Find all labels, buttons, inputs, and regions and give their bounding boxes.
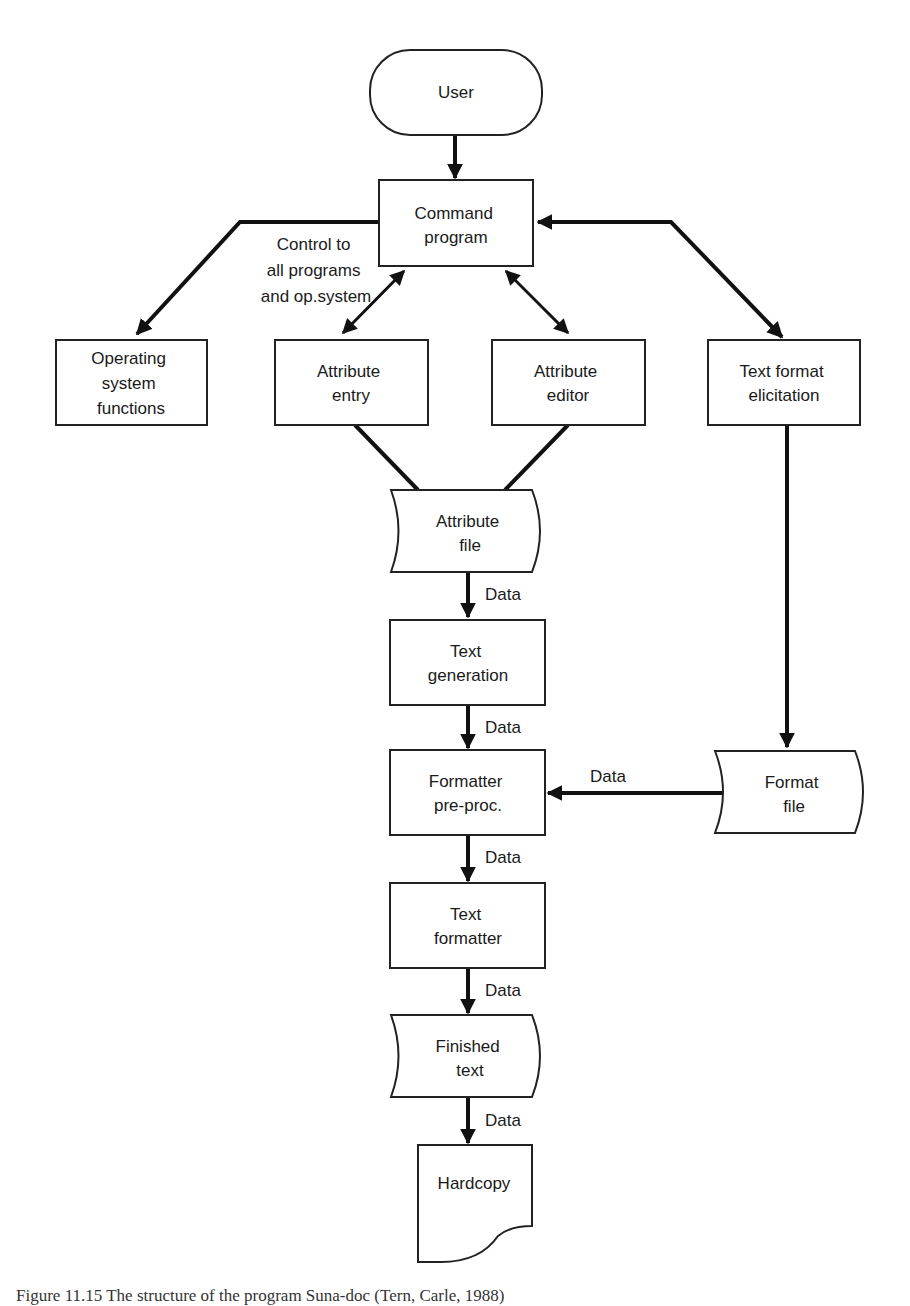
- node-format-file: Format file: [715, 751, 863, 833]
- node-attribute-editor: Attribute editor: [492, 340, 645, 425]
- node-text-format-elicitation: Text format elicitation: [708, 340, 860, 425]
- figure-caption: Figure 11.15 The structure of the progra…: [16, 1286, 504, 1306]
- node-command-program: Command program: [379, 180, 533, 266]
- edge-command-text-format-elicitation: [538, 222, 782, 337]
- edge-attribute-entry-to-file: [355, 425, 418, 490]
- node-operating-system-functions: Operating system functions: [56, 340, 207, 425]
- edge-attribute-editor-to-file: [505, 425, 568, 490]
- svg-text:User: User: [438, 83, 474, 102]
- data-label-text-formatter: Data: [485, 981, 521, 1000]
- node-attribute-file: Attribute file: [391, 490, 540, 572]
- node-user: User: [370, 50, 542, 135]
- data-label-format-file: Data: [590, 767, 626, 786]
- svg-text:Operating system f: Operating system functions: [91, 349, 170, 418]
- node-finished-text: Finished text: [391, 1015, 540, 1097]
- node-hardcopy: Hardcopy: [418, 1145, 532, 1262]
- node-formatter-preproc: Formatter pre-proc.: [390, 750, 545, 835]
- data-label-attribute-file: Data: [485, 585, 521, 604]
- edge-command-attribute-editor: [506, 271, 568, 333]
- control-label: Control to all programs and op.system: [261, 235, 372, 306]
- node-text-formatter: Text formatter: [390, 883, 545, 968]
- svg-text:Hardcopy: Hardcopy: [438, 1174, 511, 1193]
- data-label-finished-text: Data: [485, 1111, 521, 1130]
- node-text-generation: Text generation: [390, 620, 545, 705]
- data-label-formatter: Data: [485, 848, 521, 867]
- data-label-text-generation: Data: [485, 718, 521, 737]
- node-attribute-entry: Attribute entry: [275, 340, 428, 425]
